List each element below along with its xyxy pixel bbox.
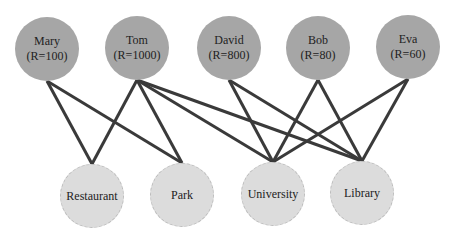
node-r-value: (R=1000) — [114, 48, 161, 63]
node-r-value: (R=60) — [391, 47, 426, 62]
node-name: Mary — [34, 34, 60, 49]
edge-tom-restaurant — [92, 80, 137, 164]
place-node-library: Library — [330, 161, 394, 225]
node-name: Restaurant — [66, 189, 117, 204]
place-node-park: Park — [150, 163, 214, 227]
place-node-restaurant: Restaurant — [60, 164, 124, 228]
place-node-university: University — [241, 162, 305, 226]
node-r-value: (R=80) — [301, 48, 336, 63]
node-name: Eva — [399, 32, 418, 47]
node-name: Tom — [126, 33, 148, 48]
node-r-value: (R=100) — [27, 49, 68, 64]
node-name: University — [248, 187, 299, 202]
node-name: Bob — [308, 33, 328, 48]
person-node-tom: Tom (R=1000) — [105, 16, 169, 80]
person-node-bob: Bob (R=80) — [286, 16, 350, 80]
node-r-value: (R=800) — [209, 48, 250, 63]
node-name: David — [214, 33, 243, 48]
node-name: Library — [344, 186, 380, 201]
person-node-david: David (R=800) — [197, 16, 261, 80]
person-node-eva: Eva (R=60) — [376, 15, 440, 79]
node-name: Park — [171, 188, 193, 203]
edge-eva-library — [362, 79, 408, 161]
person-node-mary: Mary (R=100) — [15, 17, 79, 81]
